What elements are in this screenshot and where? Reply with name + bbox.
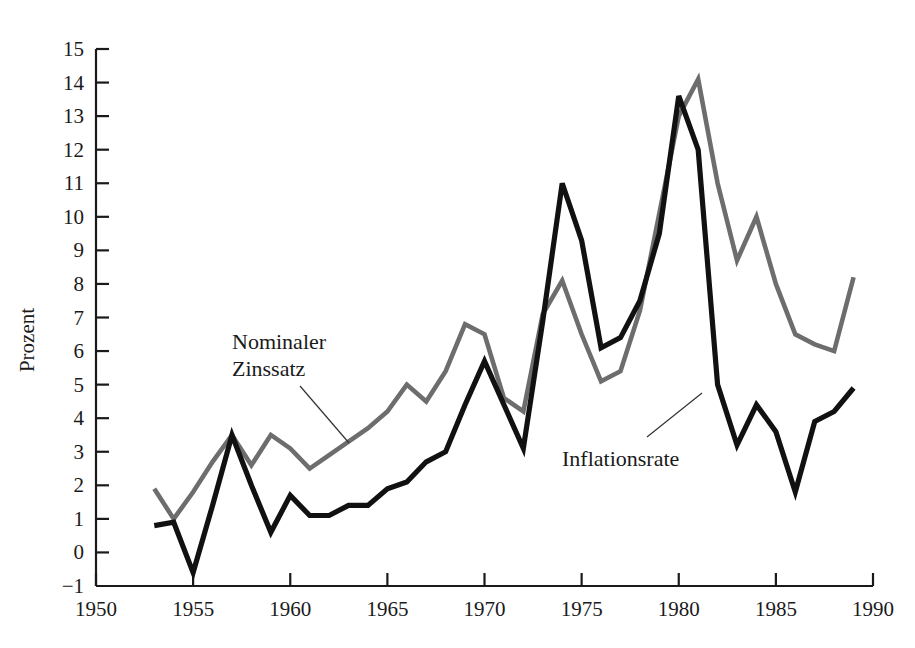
annotation-label-line2: Zinssatz — [232, 356, 306, 381]
annotation-label-line1: Inflationsrate — [562, 446, 679, 471]
y-tick-label: 6 — [74, 339, 85, 363]
x-tick-label: 1990 — [852, 597, 894, 621]
x-tick-label: 1955 — [172, 597, 214, 621]
x-tick-label: 1970 — [464, 597, 506, 621]
y-axis-tick-labels: −10123456789101112131415 — [62, 37, 85, 598]
y-tick-label: 4 — [74, 406, 85, 430]
annotation-nominaler-zinssatz: Nominaler Zinssatz — [232, 329, 349, 443]
y-tick-label: 8 — [74, 272, 85, 296]
annotation-leader-line — [300, 386, 349, 443]
y-tick-label: 10 — [63, 205, 84, 229]
y-tick-label: 1 — [74, 507, 85, 531]
y-tick-label: 3 — [74, 440, 85, 464]
data-series-group — [154, 79, 853, 572]
x-tick-label: 1950 — [75, 597, 117, 621]
y-tick-label: 7 — [74, 306, 85, 330]
y-tick-label: 14 — [63, 71, 85, 95]
y-tick-label: −1 — [62, 574, 84, 598]
y-tick-label: 2 — [74, 473, 85, 497]
x-tick-label: 1965 — [366, 597, 408, 621]
x-axis-ticks — [96, 573, 873, 586]
y-axis-title: Prozent — [15, 308, 39, 372]
chart-container: Prozent −10123456789101112131415 1950195… — [0, 0, 915, 648]
y-tick-label: 15 — [63, 37, 84, 61]
annotation-leader-line — [647, 393, 702, 437]
y-tick-label: 11 — [64, 171, 84, 195]
x-tick-label: 1985 — [755, 597, 797, 621]
y-tick-label: 12 — [63, 138, 84, 162]
y-axis-ticks — [96, 49, 109, 552]
annotation-label-line1: Nominaler — [232, 329, 327, 354]
y-tick-label: 13 — [63, 104, 84, 128]
x-tick-label: 1980 — [658, 597, 700, 621]
y-tick-label: 5 — [74, 373, 85, 397]
economics-line-chart: Prozent −10123456789101112131415 1950195… — [0, 0, 915, 648]
x-tick-label: 1960 — [269, 597, 311, 621]
x-axis-tick-labels: 195019551960196519701975198019851990 — [75, 597, 894, 621]
y-tick-label: 9 — [74, 238, 85, 262]
series-line-nominaler-zinssatz — [154, 79, 853, 519]
x-tick-label: 1975 — [561, 597, 603, 621]
y-tick-label: 0 — [74, 540, 85, 564]
annotation-inflationsrate: Inflationsrate — [562, 393, 702, 471]
